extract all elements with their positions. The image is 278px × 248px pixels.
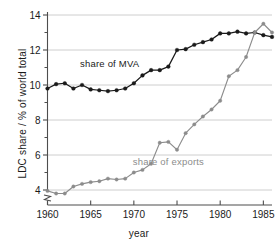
data-point — [184, 131, 187, 134]
data-point — [46, 189, 49, 192]
data-point — [89, 180, 92, 183]
y-axis-break-icon — [44, 195, 51, 201]
x-tick-label-1960: 1960 — [36, 209, 59, 220]
data-point — [167, 140, 170, 143]
x-tick-label-1975: 1975 — [166, 209, 189, 220]
data-point — [262, 33, 266, 37]
data-point — [201, 115, 204, 118]
series-exports — [46, 22, 274, 195]
data-point — [54, 192, 57, 195]
y-axis-title: LDC share / % of world total — [17, 14, 28, 214]
data-point — [218, 32, 222, 36]
data-point — [210, 108, 213, 111]
data-point — [98, 180, 101, 183]
data-point — [46, 87, 50, 91]
data-point — [115, 88, 119, 92]
data-point — [270, 35, 274, 39]
y-axis: 468101214 — [29, 10, 51, 205]
data-series — [46, 22, 274, 195]
data-point — [262, 22, 265, 25]
data-point — [175, 48, 179, 52]
chart-plot-area: 468101214 196019651970197519801985 share… — [0, 0, 278, 248]
data-point — [158, 141, 161, 144]
data-point — [201, 40, 205, 44]
data-point — [106, 177, 109, 180]
data-point — [192, 43, 196, 47]
data-point — [124, 177, 127, 180]
y-tick-label-10: 10 — [29, 80, 41, 91]
data-point — [270, 31, 273, 34]
y-tick-label-4: 4 — [35, 185, 41, 196]
chart-container: 468101214 196019651970197519801985 share… — [0, 0, 278, 248]
data-point — [63, 192, 66, 195]
data-point — [227, 32, 231, 36]
x-tick-label-1985: 1985 — [252, 209, 275, 220]
data-point — [244, 55, 247, 58]
series-line — [48, 24, 273, 194]
data-point — [253, 31, 256, 34]
data-point — [141, 74, 145, 78]
x-axis-title: year — [0, 228, 278, 239]
data-point — [184, 47, 188, 51]
data-point — [132, 171, 135, 174]
data-point — [115, 178, 118, 181]
data-point — [175, 148, 178, 151]
data-point — [149, 68, 153, 72]
data-point — [72, 185, 75, 188]
mva-series-label: share of MVA — [80, 58, 140, 69]
data-point — [123, 87, 127, 91]
data-point — [54, 82, 58, 86]
data-point — [193, 123, 196, 126]
data-point — [210, 38, 214, 42]
data-point — [80, 83, 84, 87]
y-tick-label-14: 14 — [29, 10, 41, 21]
x-tick-label-1970: 1970 — [123, 209, 146, 220]
data-point — [72, 87, 76, 91]
data-point — [80, 182, 83, 185]
x-tick-label-1980: 1980 — [209, 209, 232, 220]
data-point — [236, 68, 239, 71]
data-point — [63, 81, 67, 85]
data-point — [106, 89, 110, 93]
y-tick-label-12: 12 — [29, 45, 41, 56]
data-point — [97, 88, 101, 92]
data-point — [227, 75, 230, 78]
data-point — [218, 99, 221, 102]
x-tick-label-1965: 1965 — [80, 209, 103, 220]
data-point — [89, 88, 93, 92]
data-point — [167, 65, 171, 69]
data-point — [236, 30, 240, 34]
data-point — [132, 81, 136, 85]
data-point — [158, 68, 162, 72]
data-point — [244, 32, 248, 36]
data-point — [141, 168, 144, 171]
y-tick-label-8: 8 — [35, 115, 41, 126]
x-axis: 196019651970197519801985 — [36, 201, 275, 220]
y-tick-label-6: 6 — [35, 150, 41, 161]
exports-series-label: share of exports — [133, 156, 204, 167]
